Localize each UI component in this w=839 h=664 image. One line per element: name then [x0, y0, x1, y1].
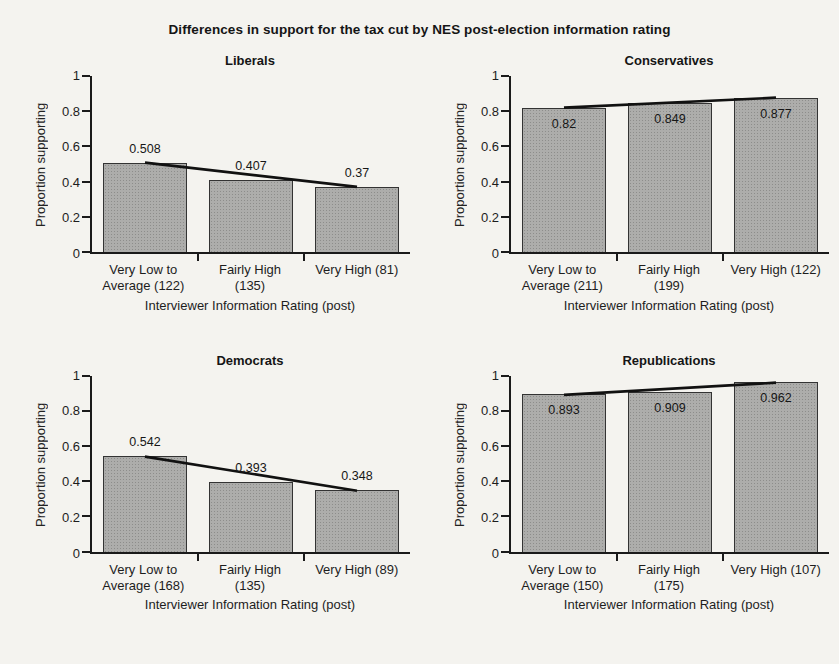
y-tick-mark	[501, 375, 509, 377]
bar-value-label: 0.962	[723, 390, 829, 406]
y-tick-label: 0.6	[62, 139, 80, 155]
figure-title: Differences in support for the tax cut b…	[0, 22, 839, 37]
chart-grid: Liberals Proportion supporting 00.20.40.…	[0, 53, 839, 612]
chart-republications: Republications Proportion supporting 00.…	[419, 353, 838, 613]
x-axis-tick-labels: Very Low toAverage (168)Fairly High(135)…	[90, 562, 410, 595]
bar-value-label: 0.909	[617, 400, 723, 416]
x-tick-label-line: Average (168)	[90, 578, 197, 594]
y-tick-mark	[82, 375, 90, 377]
y-tick-mark	[82, 515, 90, 517]
chart-conservatives: Conservatives Proportion supporting 00.2…	[419, 53, 838, 313]
y-tick-mark	[82, 181, 90, 183]
x-tick-label-line: Very High (122)	[722, 262, 829, 278]
y-tick-label: 0.2	[481, 210, 499, 226]
x-tick-label-line: Very Low to	[90, 262, 197, 278]
x-tick-label-line: (175)	[616, 578, 723, 594]
bar-value-label: 0.542	[92, 434, 198, 450]
y-tick-mark	[82, 216, 90, 218]
y-tick-label: 1	[73, 68, 80, 84]
y-tick-label: 0.6	[62, 439, 80, 455]
chart-title: Republications	[509, 353, 829, 368]
x-tick-label: Very High (107)	[722, 562, 829, 595]
x-tick-label-line: Fairly High	[197, 262, 304, 278]
x-axis-label: Interviewer Information Rating (post)	[90, 298, 410, 313]
x-tick-label: Fairly High(135)	[197, 562, 304, 595]
bar-value-label: 0.849	[617, 111, 723, 127]
y-tick-label: 0.2	[62, 510, 80, 526]
x-axis-tick-labels: Very Low toAverage (211)Fairly High(199)…	[509, 262, 829, 295]
figure-page: Differences in support for the tax cut b…	[0, 0, 839, 664]
y-tick-label: 0	[492, 246, 499, 262]
y-tick-label: 0.8	[481, 104, 499, 120]
y-axis-tick-labels: 00.20.40.60.81	[50, 376, 90, 554]
y-axis-tick-labels: 00.20.40.60.81	[469, 76, 509, 254]
chart-body: Proportion supporting 00.20.40.60.81 0.5…	[0, 76, 419, 254]
x-tick-label: Fairly High(175)	[616, 562, 723, 595]
y-tick-label: 0.6	[481, 139, 499, 155]
bar-value-label: 0.348	[304, 468, 410, 484]
y-tick-label: 0.6	[481, 439, 499, 455]
y-tick-mark	[501, 216, 509, 218]
y-tick-mark	[501, 515, 509, 517]
x-tick-label-line: (135)	[197, 278, 304, 294]
chart-title: Liberals	[90, 53, 410, 68]
x-axis-tick-labels: Very Low toAverage (122)Fairly High(135)…	[90, 262, 410, 295]
y-tick-mark	[501, 251, 509, 253]
y-tick-mark	[82, 145, 90, 147]
y-tick-label: 0.4	[62, 175, 80, 191]
y-tick-mark	[82, 410, 90, 412]
x-tick-label-line: Very High (89)	[303, 562, 410, 578]
y-axis-label: Proportion supporting	[32, 376, 50, 554]
y-tick-mark	[501, 181, 509, 183]
y-tick-mark	[501, 445, 509, 447]
x-tick-label: Very High (122)	[722, 262, 829, 295]
y-tick-label: 1	[73, 368, 80, 384]
x-tick-mark	[616, 254, 618, 261]
x-tick-label-line: Fairly High	[616, 562, 723, 578]
chart-liberals: Liberals Proportion supporting 00.20.40.…	[0, 53, 419, 313]
y-tick-mark	[501, 410, 509, 412]
x-tick-mark	[722, 254, 724, 261]
plot-area: 0.8930.9090.962	[509, 376, 829, 554]
x-tick-mark	[197, 554, 199, 561]
x-axis-label: Interviewer Information Rating (post)	[90, 597, 410, 612]
x-tick-label: Fairly High(199)	[616, 262, 723, 295]
x-axis-tick-labels: Very Low toAverage (150)Fairly High(175)…	[509, 562, 829, 595]
y-tick-label: 0.4	[62, 474, 80, 490]
x-axis-label: Interviewer Information Rating (post)	[509, 597, 829, 612]
x-tick-mark	[722, 554, 724, 561]
x-tick-mark	[303, 254, 305, 261]
bar-value-label: 0.37	[304, 165, 410, 181]
plot-area: 0.5420.3930.348	[90, 376, 410, 554]
y-tick-mark	[82, 251, 90, 253]
x-tick-mark	[303, 554, 305, 561]
y-tick-label: 0.4	[481, 175, 499, 191]
chart-title: Democrats	[90, 353, 410, 368]
x-tick-label: Very High (81)	[303, 262, 410, 295]
y-tick-label: 1	[492, 68, 499, 84]
x-tick-label-line: (135)	[197, 578, 304, 594]
x-tick-label-line: Very High (81)	[303, 262, 410, 278]
x-tick-label: Very Low toAverage (211)	[509, 262, 616, 295]
plot-area: 0.5080.4070.37	[90, 76, 410, 254]
bar-value-label: 0.393	[198, 460, 304, 476]
bar-value-label: 0.508	[92, 141, 198, 157]
y-tick-mark	[501, 145, 509, 147]
x-tick-label: Very Low toAverage (122)	[90, 262, 197, 295]
x-tick-label-line: Fairly High	[197, 562, 304, 578]
x-tick-label-line: (199)	[616, 278, 723, 294]
y-tick-label: 0.2	[481, 510, 499, 526]
y-tick-label: 0.2	[62, 210, 80, 226]
bar-value-label: 0.407	[198, 158, 304, 174]
x-tick-label: Fairly High(135)	[197, 262, 304, 295]
plot-area: 0.820.8490.877	[509, 76, 829, 254]
y-tick-label: 0	[73, 546, 80, 562]
trend-line	[511, 76, 829, 252]
x-tick-label: Very Low toAverage (168)	[90, 562, 197, 595]
y-tick-mark	[82, 445, 90, 447]
chart-body: Proportion supporting 00.20.40.60.81 0.8…	[419, 76, 838, 254]
y-axis-label: Proportion supporting	[451, 76, 469, 254]
x-tick-label: Very Low toAverage (150)	[509, 562, 616, 595]
y-axis-label: Proportion supporting	[32, 76, 50, 254]
x-tick-label-line: Very Low to	[509, 262, 616, 278]
